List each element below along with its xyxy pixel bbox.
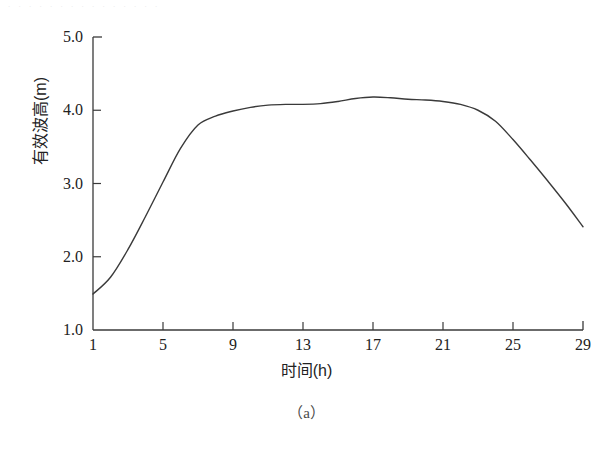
x-tick-label: 25: [493, 337, 533, 353]
figure-container: . . . . . . . . . . . . . . . 1.02.03.04…: [0, 0, 613, 449]
x-tick-label: 29: [563, 337, 603, 353]
x-tick-label: 13: [283, 337, 323, 353]
chart-svg: [0, 0, 613, 360]
x-tick-label: 21: [423, 337, 463, 353]
x-tick-label: 9: [213, 337, 253, 353]
plot-area: 1.02.03.04.05.0 1591317212529 有效波高(m): [0, 0, 613, 360]
data-series-line: [93, 97, 583, 294]
y-axis-title: 有效波高(m): [32, 36, 50, 206]
y-tick-label: 2.0: [43, 249, 83, 265]
figure-caption: （a）: [0, 404, 613, 422]
x-axis-title: 时间(h): [0, 362, 613, 380]
axis-layer: [93, 37, 583, 330]
series-layer: [93, 97, 583, 294]
x-tick-label: 5: [143, 337, 183, 353]
y-tick-label: 1.0: [43, 322, 83, 338]
x-tick-label: 1: [73, 337, 113, 353]
x-tick-label: 17: [353, 337, 393, 353]
